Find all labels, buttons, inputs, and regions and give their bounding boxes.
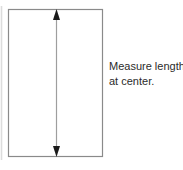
annotation-line-2: at center.	[109, 74, 183, 89]
annotation-text: Measure length at center.	[109, 59, 183, 89]
annotation-line-1: Measure length	[109, 59, 183, 74]
measured-rectangle	[9, 10, 103, 157]
figure-canvas: Measure length at center.	[0, 0, 183, 170]
